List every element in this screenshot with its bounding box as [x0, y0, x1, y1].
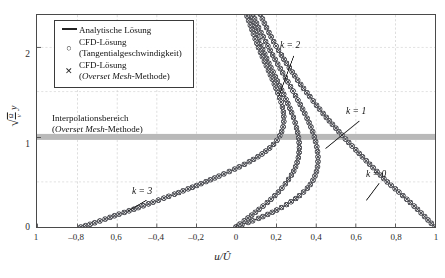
legend-item-analytical: Analytische Lösung: [59, 25, 188, 36]
x-tick-0: 1: [16, 232, 56, 242]
radical-sign: √: [6, 119, 22, 126]
x-axis-label: u/Û: [0, 250, 445, 262]
annotation-k1: k = 1: [346, 106, 366, 116]
x-tick-9: 0,8: [376, 232, 416, 242]
chart-figure: √Ων y 0 1 2 Interpolationsbereich (Overs…: [0, 0, 445, 278]
legend-label-cfd-2-post: -Methode): [132, 71, 170, 81]
legend-label-analytical: Analytische Lösung: [79, 25, 151, 35]
y-tick-2: 2: [10, 49, 30, 59]
legend-label-cfd-2: CFD-Lösung: [79, 60, 127, 70]
x-tick-2: 0,6: [96, 232, 136, 242]
y-axis-label: √Ων y: [0, 96, 32, 136]
annotation-k2: k = 2: [280, 40, 300, 50]
x-tick-3: –0,4: [136, 232, 176, 242]
legend-item-cfd-tangential: ○ CFD-Lösung (Tangentialgeschwindigkeit): [59, 37, 188, 59]
annotation-k0: k = 0: [366, 169, 386, 179]
x-tick-6: 0,2: [256, 232, 296, 242]
chart-legend: Analytische Lösung ○ CFD-Lösung (Tangent…: [54, 20, 194, 88]
interpolation-band-label: Interpolationsbereich (Overset Mesh-Meth…: [52, 113, 143, 135]
legend-label-cfd-2-italic: Overset Mesh: [82, 71, 132, 81]
legend-label-cfd-1: CFD-Lösung: [79, 37, 127, 47]
legend-item-cfd-overset: ✕ CFD-Lösung (Overset Mesh-Methode): [59, 60, 188, 82]
y-tick-1: 1: [10, 139, 30, 149]
interp-line-1: Interpolationsbereich: [52, 113, 128, 123]
x-tick-8: 0,6: [336, 232, 376, 242]
legend-label-cfd-1-sub: (Tangentialgeschwindigkeit): [79, 48, 182, 58]
circle-symbol-icon: ○: [59, 37, 79, 54]
x-den: Û: [223, 250, 231, 262]
x-tick-1: –0,8: [56, 232, 96, 242]
line-symbol-icon: [59, 25, 79, 36]
annotation-k3: k = 3: [132, 186, 152, 196]
y-tick-0: 0: [10, 222, 30, 232]
x-num: u: [214, 250, 220, 262]
x-tick-5: 0: [216, 232, 256, 242]
interp-line-2-post: -Methode): [105, 124, 143, 134]
x-tick-10: 1: [416, 232, 445, 242]
x-tick-4: –0,2: [176, 232, 216, 242]
x-tick-7: 0,4: [296, 232, 336, 242]
omega-over-nu-fraction: Ων: [8, 113, 23, 120]
y-variable: y: [8, 106, 19, 110]
interp-line-2-italic: Overset Mesh: [55, 124, 105, 134]
cross-symbol-icon: ✕: [59, 60, 79, 77]
